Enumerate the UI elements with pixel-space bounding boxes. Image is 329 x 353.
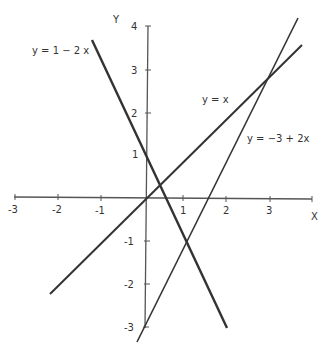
x-tick-label: 1 — [180, 205, 186, 216]
line-label-x: y = x — [202, 94, 229, 105]
line-y-equals-1-minus-2x — [92, 40, 227, 328]
y-tick-label: -3 — [124, 322, 134, 333]
x-tick-label: 3 — [266, 205, 272, 216]
line-label-minus-3-plus-2x: y = −3 + 2x — [247, 133, 309, 144]
y-tick-label: -2 — [124, 279, 134, 290]
y-axis — [145, 26, 148, 328]
line-label-1-minus-2x: y = 1 − 2 x — [32, 45, 89, 56]
y-tick-label: 3 — [131, 65, 137, 76]
y-tick-label: 4 — [131, 21, 137, 32]
y-tick-label: 1 — [132, 149, 138, 160]
line-y-equals-minus-3-plus-2x — [137, 18, 298, 342]
y-tick-label: -1 — [124, 236, 134, 247]
line-y-equals-x — [50, 45, 302, 294]
y-tick-label: 2 — [131, 108, 137, 119]
linear-equations-graph: -3 -2 -1 1 2 3 4 3 2 1 -1 -2 -3 Y X y = … — [0, 0, 329, 353]
y-axis-label: Y — [112, 14, 120, 25]
x-axis-label: X — [311, 211, 318, 222]
x-tick-label: -2 — [52, 204, 62, 215]
x-tick-label: 2 — [223, 205, 229, 216]
x-tick-label: -3 — [8, 204, 18, 215]
x-tick-label: -1 — [95, 205, 105, 216]
x-axis — [14, 197, 312, 199]
